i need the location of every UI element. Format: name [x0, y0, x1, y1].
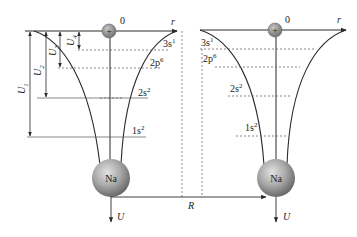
right-origin-label: 0: [285, 14, 290, 25]
right-na-label: Na: [270, 173, 282, 184]
left-na-label: Na: [105, 173, 117, 184]
separation: R: [111, 31, 266, 211]
left-r-axis-label: r: [171, 16, 175, 27]
label-U1: U1: [16, 83, 30, 94]
diagram-canvas: r 0 3s1 2p6 2s2 1s2 U1 U2 U3 U4 + Na: [0, 0, 357, 237]
right-atom: r 0 3s1 2p6 2s2 1s2 + Na U: [200, 14, 346, 222]
label-U3: U3: [47, 45, 61, 56]
left-nucleus-plus: +: [106, 26, 112, 37]
right-U-label: U: [283, 211, 291, 222]
right-label-3s: 3s1: [201, 36, 214, 48]
left-atom: r 0 3s1 2p6 2s2 1s2 U1 U2 U3 U4 + Na: [16, 15, 177, 222]
left-origin-label: 0: [120, 15, 125, 26]
right-label-1s: 1s2: [245, 121, 258, 133]
right-label-2p: 2p6: [203, 52, 217, 64]
left-label-2p: 2p6: [150, 56, 164, 68]
right-potential-curve-right: [287, 30, 346, 165]
distance-R-label: R: [187, 200, 194, 211]
right-nucleus-plus: +: [272, 25, 278, 36]
right-r-axis-label: r: [337, 14, 341, 25]
left-label-1s: 1s2: [132, 124, 145, 136]
right-potential-curve-left: [200, 30, 264, 165]
left-U-label: U: [117, 211, 125, 222]
left-label-3s: 3s1: [163, 37, 176, 49]
label-U4: U4: [65, 35, 79, 46]
right-label-2s: 2s2: [230, 82, 243, 94]
label-U2: U2: [32, 65, 46, 76]
left-label-2s: 2s2: [138, 86, 151, 98]
